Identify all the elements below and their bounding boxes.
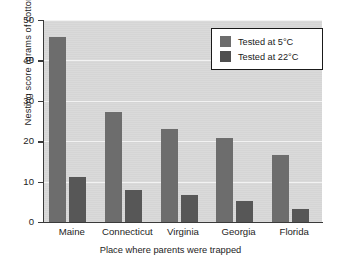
- legend-item: Tested at 5°C: [220, 34, 316, 49]
- gridline: [44, 141, 322, 142]
- bar: [236, 201, 253, 222]
- bar: [125, 190, 142, 222]
- bar: [292, 209, 309, 222]
- y-axis-tick: [38, 222, 43, 223]
- legend: Tested at 5°C Tested at 22°C: [211, 28, 323, 70]
- bar: [272, 155, 289, 222]
- bar: [69, 177, 86, 222]
- legend-item-label: Tested at 5°C: [238, 37, 293, 47]
- x-axis-tick-label: Virginia: [155, 226, 211, 237]
- x-axis-tick-label: Maine: [44, 226, 100, 237]
- y-axis-tick-label: 40: [8, 54, 34, 65]
- y-axis-tick: [38, 20, 43, 21]
- y-axis-tick: [38, 101, 43, 102]
- y-axis-tick-label: 30: [8, 95, 34, 106]
- y-axis-tick: [38, 60, 43, 61]
- legend-item-label: Tested at 22°C: [238, 52, 298, 62]
- legend-swatch-icon: [220, 51, 231, 62]
- y-axis-tick-label: 10: [8, 176, 34, 187]
- chart-figure: Nesting score (grams of cotton) 01020304…: [0, 0, 341, 266]
- y-axis-tick: [38, 182, 43, 183]
- y-axis-tick-label: 50: [8, 14, 34, 25]
- legend-swatch-icon: [220, 36, 231, 47]
- x-axis-tick-label: Georgia: [211, 226, 267, 237]
- gridline: [44, 101, 322, 102]
- bar: [105, 112, 122, 222]
- legend-item: Tested at 22°C: [220, 49, 316, 64]
- bar: [216, 138, 233, 222]
- y-axis-tick-label: 0: [8, 216, 34, 227]
- x-axis-tick-label: Florida: [266, 226, 322, 237]
- bar: [49, 37, 66, 222]
- y-axis-tick: [38, 141, 43, 142]
- x-axis-line: [43, 222, 323, 223]
- x-axis-title: Place where parents were trapped: [0, 245, 341, 255]
- y-axis-tick-label: 20: [8, 135, 34, 146]
- gridline: [44, 20, 322, 21]
- bar: [181, 195, 198, 222]
- bar: [161, 129, 178, 222]
- x-axis-tick-label: Connecticut: [100, 226, 156, 237]
